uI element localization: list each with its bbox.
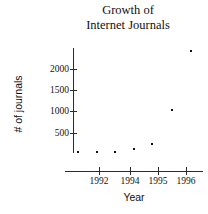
y-tick-label-1000: 1000 bbox=[35, 106, 69, 116]
y-tick-mark-500 bbox=[70, 133, 77, 134]
y-tick-label-500: 500 bbox=[35, 128, 69, 138]
plot-area: 2000 1500 1000 500 1992 1994 1995 1996 bbox=[0, 0, 208, 214]
y-tick-label-1500: 1500 bbox=[35, 85, 69, 95]
x-tick-mark-1992 bbox=[99, 167, 100, 175]
data-point bbox=[133, 148, 136, 151]
data-point bbox=[190, 50, 193, 53]
data-point bbox=[114, 151, 117, 154]
data-point bbox=[171, 109, 174, 112]
x-tick-label-1996: 1996 bbox=[171, 176, 201, 186]
x-axis-line bbox=[65, 171, 203, 172]
x-tick-label-1995: 1995 bbox=[143, 176, 173, 186]
y-axis-label: # of journals bbox=[12, 61, 24, 147]
y-tick-mark-1000 bbox=[70, 111, 77, 112]
y-tick-mark-1500 bbox=[70, 90, 77, 91]
x-axis-label: Year bbox=[65, 191, 203, 203]
x-tick-mark-1996 bbox=[186, 167, 187, 175]
x-tick-label-1994: 1994 bbox=[115, 176, 145, 186]
data-point bbox=[151, 143, 154, 146]
x-tick-mark-1995 bbox=[158, 167, 159, 175]
x-tick-mark-1994 bbox=[130, 167, 131, 175]
y-tick-mark-2000 bbox=[70, 69, 77, 70]
y-tick-label-2000: 2000 bbox=[35, 64, 69, 74]
x-tick-label-1992: 1992 bbox=[84, 176, 114, 186]
data-point bbox=[77, 151, 80, 154]
y-axis-line bbox=[73, 48, 74, 153]
chart-figure: Growth of Internet Journals 2000 1500 10… bbox=[0, 0, 208, 214]
data-point bbox=[96, 151, 99, 154]
